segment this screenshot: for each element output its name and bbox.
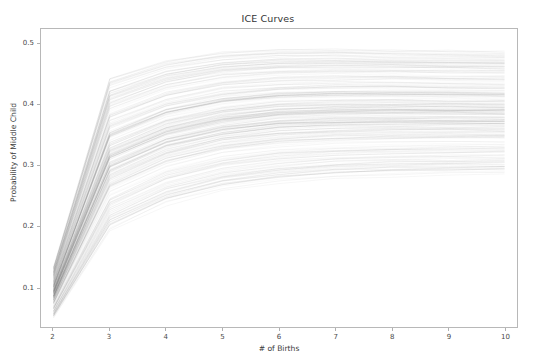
x-tick-mark	[52, 328, 53, 331]
y-tick-label: 0.3	[23, 161, 34, 169]
top-edge-artifact	[243, 0, 261, 8]
ice-curve	[53, 165, 504, 315]
y-tick-label: 0.1	[23, 284, 34, 292]
x-tick-mark	[222, 328, 223, 331]
x-tick-mark	[335, 328, 336, 331]
ice-curve-bundle	[53, 49, 504, 318]
y-tick-label: 0.5	[23, 39, 34, 47]
x-tick-label: 3	[99, 333, 119, 341]
ice-curve	[53, 169, 504, 316]
y-axis-label: Probability of Middle Child	[9, 78, 18, 228]
ice-curve	[53, 169, 504, 315]
y-tick-label: 0.4	[23, 100, 34, 108]
plot-area	[40, 28, 518, 328]
ice-curve	[53, 163, 504, 314]
x-tick-label: 10	[496, 333, 516, 341]
x-tick-mark	[392, 328, 393, 331]
x-tick-label: 4	[156, 333, 176, 341]
ice-curve	[53, 162, 504, 314]
x-tick-label: 2	[42, 333, 62, 341]
x-tick-label: 9	[439, 333, 459, 341]
x-axis-label: # of Births	[40, 344, 518, 353]
x-tick-label: 5	[212, 333, 232, 341]
ice-curve	[53, 162, 504, 314]
ice-curve	[53, 174, 504, 318]
y-tick-label: 0.2	[23, 222, 34, 230]
ice-curve	[53, 167, 504, 316]
x-tick-label: 6	[269, 333, 289, 341]
chart-figure: ICE Curves Probability of Middle Child #…	[0, 0, 536, 362]
x-tick-mark	[505, 328, 506, 331]
x-tick-mark	[448, 328, 449, 331]
ice-curves-plot	[41, 29, 517, 327]
x-tick-mark	[279, 328, 280, 331]
ice-curve	[53, 166, 504, 314]
ice-curve	[53, 155, 504, 312]
x-tick-label: 7	[326, 333, 346, 341]
chart-title: ICE Curves	[0, 13, 536, 24]
ice-curve	[53, 157, 504, 311]
ice-curve	[53, 128, 504, 300]
x-tick-label: 8	[382, 333, 402, 341]
x-tick-mark	[165, 328, 166, 331]
x-tick-mark	[109, 328, 110, 331]
ice-curve	[53, 167, 504, 314]
